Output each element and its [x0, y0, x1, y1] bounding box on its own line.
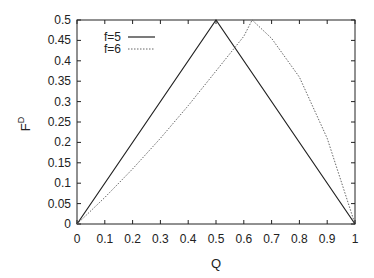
y-tick-label: 0.45	[48, 33, 72, 47]
y-tick-label: 0.5	[54, 13, 71, 27]
x-tick-label: 0.7	[263, 232, 280, 246]
svg-text:FD: FD	[16, 116, 33, 131]
x-tick-label: 0	[74, 232, 81, 246]
x-tick-label: 0.8	[291, 232, 308, 246]
x-tick-label: 0.5	[208, 232, 225, 246]
y-axis-ticks: 00.050.10.150.20.250.30.350.40.450.5	[48, 13, 355, 231]
y-tick-label: 0.05	[48, 197, 72, 211]
x-tick-label: 0.2	[124, 232, 141, 246]
y-axis-label: FD	[16, 116, 33, 131]
x-tick-label: 0.6	[235, 232, 252, 246]
x-tick-label: 0.3	[152, 232, 169, 246]
x-tick-label: 0.1	[96, 232, 113, 246]
y-tick-label: 0	[64, 217, 71, 231]
y-tick-label: 0.4	[54, 54, 71, 68]
x-axis-label: Q	[211, 256, 221, 271]
y-tick-label: 0.2	[54, 135, 71, 149]
y-tick-label: 0.15	[48, 156, 72, 170]
x-tick-label: 0.9	[319, 232, 336, 246]
y-tick-label: 0.35	[48, 74, 72, 88]
x-tick-label: 0.4	[180, 232, 197, 246]
legend: f=5f=6	[104, 30, 155, 56]
line-chart: 00.050.10.150.20.250.30.350.40.450.5 00.…	[0, 0, 374, 278]
x-tick-label: 1	[352, 232, 359, 246]
legend-label: f=6	[104, 42, 121, 56]
y-tick-label: 0.1	[54, 176, 71, 190]
y-tick-label: 0.25	[48, 115, 72, 129]
y-tick-label: 0.3	[54, 95, 71, 109]
